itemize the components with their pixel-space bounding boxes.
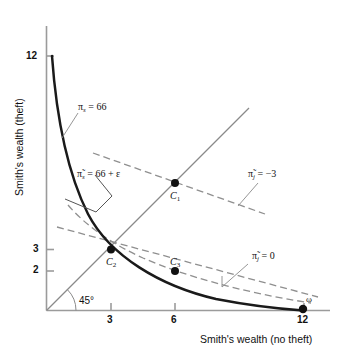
c3-sub: 3 [177,261,181,269]
y-axis-title: Smith's wealth (theft) [13,98,25,196]
c1-sub: 1 [177,195,181,203]
pi-value: = 66 [86,101,107,112]
leader-line-pis66 [62,113,78,138]
c1-base: C [170,190,177,201]
label-isoprofit-66: πs = 66 [78,101,106,114]
point-label-c3: C3 [170,256,180,269]
label-isoprofit-66-eps: π̃s = 66 + ε [77,168,120,181]
plot-canvas [0,0,343,354]
c2-base: C [106,256,113,267]
y-tick-label-3: 3 [33,243,39,255]
indifference-line-zero [57,227,318,297]
x-axis-title: Smith's wealth (no theft) [200,333,312,345]
label-indifference-zero: π̃j = 0 [252,250,275,263]
angle-label-45: 45° [79,295,94,307]
angle-arc [67,290,76,311]
y-tick-label-2: 2 [33,264,39,276]
point-c1 [171,179,179,187]
point-label-c1: C1 [170,190,180,203]
x-tick-label-3: 3 [107,314,113,326]
c2-sub: 2 [113,261,117,269]
c3-base: C [170,256,177,267]
omega-label: ω [306,294,312,304]
leader-line-minus3 [238,183,258,206]
x-tick-label-6: 6 [171,314,177,326]
point-omega [299,305,307,313]
point-label-c2: C2 [106,256,116,269]
pi-tilde-value: = 66 + ε [85,168,120,179]
data-points [107,179,307,313]
pi-tilde-j0-value: = 0 [259,250,275,261]
point-c2 [107,246,115,254]
x-tick-label-12: 12 [297,314,308,326]
y-axis-ticks [47,56,55,271]
figure-container: Smith's wealth (theft) Smith's wealth (n… [0,0,343,354]
label-indifference-minus3: π̃j = −3 [248,168,276,181]
forty-five-degree-line [47,108,250,311]
leader-line-zero [222,264,248,287]
pi-tilde-j-value: = −3 [255,168,276,179]
y-tick-label-12: 12 [26,50,37,62]
